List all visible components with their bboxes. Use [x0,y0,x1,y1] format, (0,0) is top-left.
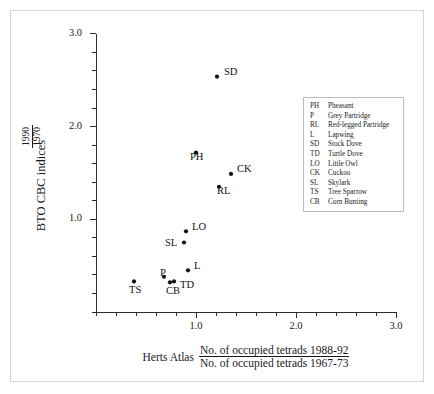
legend-row-PH: PHPheasant [310,102,403,112]
legend-row-P: PGrey Partridge [310,112,403,122]
legend-code-LO: LO [310,160,328,170]
legend-name-SL: Skylark [328,179,403,189]
data-point-CK [229,172,233,176]
y-axis-fraction: 1990 1970 [30,108,52,152]
point-label-SD: SD [224,66,237,77]
point-label-TD: TD [180,279,194,290]
point-label-SL: SL [165,237,177,248]
x-axis-fraction-stack: No. of occupied tetrads 1988-92 No. of o… [199,344,350,369]
legend-code-PH: PH [310,102,328,112]
legend-row-TD: TDTurtle Dove [310,150,403,160]
legend-name-TD: Turtle Dove [328,150,403,160]
legend-name-CB: Corn Bunting [328,198,403,208]
legend-name-L: Lapwing [328,131,403,141]
legend-code-SD: SD [310,140,328,150]
legend-code-SL: SL [310,179,328,189]
point-label-RL: RL [217,185,230,196]
data-point-TS [132,279,136,283]
y-axis-fraction-stack: 1990 1970 [22,125,43,148]
y-tick-label-3.0: 3.0 [52,27,82,38]
legend-name-RL: Red-legged Partridge [328,121,403,131]
y-tick-label-1.0: 1.0 [52,212,82,223]
legend-row-LO: LOLittle Owl [310,160,403,170]
legend-row-RL: RLRed-legged Partridge [310,121,403,131]
legend-row-CB: CBCorn Bunting [310,198,403,208]
legend-code-CK: CK [310,169,328,179]
point-label-P: P [160,267,166,278]
x-axis-fraction-denominator: No. of occupied tetrads 1967-73 [199,357,350,369]
legend-code-P: P [310,112,328,122]
x-tick-label-1.0: 1.0 [176,320,216,331]
species-legend: PHPheasantPGrey PartridgeRLRed-legged Pa… [303,97,404,212]
legend-row-L: LLapwing [310,131,403,141]
x-axis-title-prefix: Herts Atlas [143,351,194,363]
x-tick-label-3.0: 3.0 [376,320,416,331]
legend-name-LO: Little Owl [328,160,403,170]
point-label-CK: CK [237,163,252,174]
legend-name-TS: Tree Sparrow [328,188,403,198]
data-point-TD [172,279,176,283]
data-point-SL [182,240,186,244]
legend-code-TS: TS [310,188,328,198]
point-label-TS: TS [129,284,141,295]
data-point-L [186,268,190,272]
legend-name-CK: Cuckoo [328,169,403,179]
x-axis-title: Herts Atlas No. of occupied tetrads 1988… [96,344,396,369]
legend-code-L: L [310,131,328,141]
y-tick-label-2.0: 2.0 [52,120,82,131]
legend-row-SL: SLSkylark [310,179,403,189]
data-point-CB [168,280,172,284]
legend-code-TD: TD [310,150,328,160]
x-axis-fraction-numerator: No. of occupied tetrads 1988-92 [199,344,350,357]
legend-code-CB: CB [310,198,328,208]
legend-row-TS: TSTree Sparrow [310,188,403,198]
legend-row-SD: SDStock Dove [310,140,403,150]
point-label-LO: LO [192,221,206,232]
legend-name-PH: Pheasant [328,102,403,112]
scatter-plot-figure: 1.02.03.01.02.03.0 SDPHCKRLLOSLLPTDCBTS … [0,0,434,394]
data-points-group [132,74,233,284]
point-label-CB: CB [166,285,180,296]
data-point-LO [184,229,188,233]
point-label-PH: PH [190,151,203,162]
legend-row-CK: CKCuckoo [310,169,403,179]
y-axis-fraction-denominator: 1970 [33,125,43,148]
legend-code-RL: RL [310,121,328,131]
legend-name-P: Grey Partridge [328,112,403,122]
x-tick-label-2.0: 2.0 [276,320,316,331]
legend-name-SD: Stock Dove [328,140,403,150]
point-label-L: L [194,260,200,271]
data-point-SD [215,74,219,78]
